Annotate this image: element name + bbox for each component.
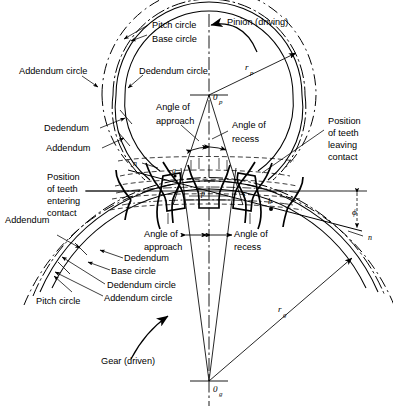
leader-lines bbox=[54, 25, 363, 296]
label-pinion-driving: Pinion (driving) bbox=[227, 17, 288, 27]
dim-tick-2 bbox=[118, 132, 130, 146]
label-angle-approach-bottom-line2: approach bbox=[144, 242, 182, 252]
symbol-line-of-action-right: n bbox=[368, 233, 372, 242]
diagram-canvas: Pitch circle Base circle Addendum circle… bbox=[0, 0, 393, 414]
label-angle-recess-bottom-line2: recess bbox=[234, 242, 261, 252]
symbol-pinion-radius: r bbox=[245, 62, 249, 72]
symbol-pitch-point: p bbox=[200, 189, 205, 198]
label-position-entering-line2: of teeth bbox=[47, 184, 78, 194]
symbol-pressure-angle: ϕ bbox=[352, 207, 357, 217]
aux-arc-4 bbox=[110, 204, 302, 210]
label-dedendum-left: Dedendum bbox=[44, 123, 89, 133]
label-base-circle-top: Base circle bbox=[152, 34, 197, 44]
leader-n-right bbox=[348, 231, 363, 236]
pinion-pitch-circle-right-lower bbox=[273, 95, 306, 180]
label-angle-approach-top-line1: Angle of bbox=[156, 102, 190, 112]
leader-dedendum-lower bbox=[100, 250, 123, 258]
label-pitch-circle-top: Pitch circle bbox=[152, 20, 196, 30]
label-base-circle-lower: Base circle bbox=[111, 266, 156, 276]
symbol-line-of-action-left: n bbox=[133, 159, 137, 168]
symbol-gear-radius-sub: g bbox=[283, 311, 287, 319]
dim-tick-1 bbox=[120, 110, 132, 124]
label-angle-recess-bottom-line1: Angle of bbox=[234, 229, 268, 239]
gear-rotation-arrow bbox=[131, 316, 168, 359]
aux-arc-2 bbox=[115, 179, 297, 186]
dim-tick-4 bbox=[58, 262, 70, 274]
leader-position-leaving bbox=[262, 130, 324, 173]
symbol-gear-center: 0 bbox=[213, 384, 218, 394]
gear-radius-arrow bbox=[209, 258, 352, 381]
label-position-entering-line3: entering bbox=[47, 196, 80, 206]
leader-dedendum-circle-top bbox=[128, 75, 143, 88]
symbol-pinion-center: 0 bbox=[213, 92, 218, 102]
label-position-leaving-line1: Position bbox=[328, 116, 361, 126]
pinion-angle-arc-right bbox=[210, 147, 226, 150]
symbol-point-c: c bbox=[243, 189, 247, 198]
pinion-angle-arc-left bbox=[192, 147, 208, 150]
label-dedendum-lower: Dedendum bbox=[124, 253, 169, 263]
pinion-rotation-arrow bbox=[211, 24, 257, 52]
label-angle-recess-top-line2: recess bbox=[232, 134, 259, 144]
symbol-point-a: a bbox=[172, 166, 176, 175]
leader-angle-recess-top bbox=[212, 131, 228, 139]
leader-addendum-circle-lower bbox=[55, 272, 103, 296]
symbol-pinion-center-sub: p bbox=[218, 98, 223, 106]
label-addendum-lower-left: Addendum bbox=[5, 215, 50, 225]
mesh-construction-arcs bbox=[110, 157, 302, 211]
label-pitch-circle-lower: Pitch circle bbox=[36, 296, 80, 306]
label-addendum-circle-lower: Addendum circle bbox=[104, 293, 172, 303]
label-angle-approach-bottom-line1: Angle of bbox=[144, 229, 178, 239]
label-addendum-left: Addendum bbox=[46, 143, 91, 153]
gear-meshing-diagram: Pitch circle Base circle Addendum circle… bbox=[0, 0, 393, 414]
label-dedendum-circle-lower: Dedendum circle bbox=[107, 280, 176, 290]
leader-n-left bbox=[142, 163, 158, 168]
leader-dedendum-circle-lower bbox=[62, 257, 105, 284]
leader-base-circle-lower bbox=[88, 262, 110, 270]
label-addendum-circle-top: Addendum circle bbox=[19, 66, 87, 76]
leader-addendum-circle-top bbox=[82, 76, 98, 87]
symbol-gear-center-sub: g bbox=[219, 390, 223, 398]
symbol-point-b: b bbox=[268, 197, 272, 206]
pinion-pitch-circle-left-lower bbox=[112, 95, 145, 180]
label-angle-approach-top-line2: approach bbox=[156, 116, 194, 126]
gear-tooth-far-right bbox=[283, 177, 303, 227]
label-position-leaving-line4: contact bbox=[328, 152, 358, 162]
label-position-leaving-line2: of teeth bbox=[328, 128, 359, 138]
pinion-dedendum-circle-right-lower bbox=[258, 95, 293, 171]
label-gear-driven: Gear (driven) bbox=[101, 356, 155, 366]
label-angle-recess-top-line1: Angle of bbox=[232, 120, 266, 130]
contact-point-b bbox=[269, 207, 273, 211]
label-position-leaving-line3: leaving bbox=[328, 140, 357, 150]
leader-pitch-circle-lower bbox=[54, 276, 72, 292]
symbol-gear-radius: r bbox=[278, 304, 282, 314]
label-dedendum-circle-top: Dedendum circle bbox=[139, 66, 208, 76]
label-position-entering-line4: contact bbox=[47, 208, 77, 218]
label-position-entering-line1: Position bbox=[47, 172, 80, 182]
symbol-pinion-radius-sub: p bbox=[249, 69, 254, 77]
